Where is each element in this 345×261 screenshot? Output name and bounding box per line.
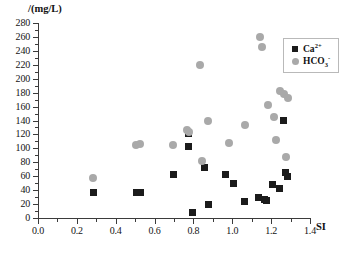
y-tick-label: 80: [0, 157, 30, 167]
x-tick: [116, 219, 117, 224]
data-point-ca2: [269, 181, 276, 188]
y-tick-label: 180: [0, 88, 30, 98]
data-point-hco3: [198, 157, 206, 165]
square-marker-icon: [289, 46, 301, 52]
x-tick: [155, 219, 156, 224]
x-tick-label: 0.2: [60, 226, 94, 236]
plot-area: [38, 23, 310, 218]
data-point-ca2: [205, 201, 212, 208]
y-tick-label: 160: [0, 102, 30, 112]
data-point-ca2: [137, 189, 144, 196]
x-tick-label: 0.6: [138, 226, 172, 236]
x-tick-label: 1.0: [215, 226, 249, 236]
x-tick: [310, 219, 311, 224]
data-point-hco3: [272, 136, 280, 144]
y-tick-label: 260: [0, 32, 30, 42]
y-tick-label: 200: [0, 74, 30, 84]
data-point-ca2: [263, 197, 270, 204]
data-point-ca2: [189, 209, 196, 216]
y-tick-label: 60: [0, 171, 30, 181]
x-tick-minor: [252, 219, 253, 222]
data-point-ca2: [276, 185, 283, 192]
x-tick-label: 0.4: [99, 226, 133, 236]
data-point-ca2: [280, 117, 287, 124]
y-tick-label: 40: [0, 185, 30, 195]
legend-label-hco3: HCO3-: [301, 54, 330, 68]
data-point-hco3: [89, 174, 97, 182]
x-tick: [38, 219, 39, 224]
x-tick-minor: [213, 219, 214, 222]
x-tick: [232, 219, 233, 224]
data-point-ca2: [170, 171, 177, 178]
data-point-hco3: [169, 141, 177, 149]
x-tick: [77, 219, 78, 224]
circle-marker-icon: [289, 58, 301, 65]
x-tick-label: 0.0: [21, 226, 55, 236]
y-axis-title: /(mg/L): [28, 3, 62, 14]
y-tick-label: 220: [0, 60, 30, 70]
data-point-hco3: [270, 113, 278, 121]
data-point-ca2: [241, 198, 248, 205]
x-tick-minor: [57, 219, 58, 222]
legend-item-ca[interactable]: Ca2+: [289, 42, 334, 55]
x-tick: [271, 219, 272, 224]
legend-item-hco3[interactable]: HCO3-: [289, 55, 334, 68]
data-point-hco3: [204, 117, 212, 125]
x-tick-label: 0.8: [176, 226, 210, 236]
data-point-ca2: [90, 189, 97, 196]
x-tick-minor: [96, 219, 97, 222]
y-tick-label: 120: [0, 129, 30, 139]
data-point-ca2: [284, 173, 291, 180]
x-tick-label: 1.4: [293, 226, 327, 236]
data-point-ca2: [230, 180, 237, 187]
legend-label-ca: Ca2+: [301, 42, 322, 54]
y-tick-label: 20: [0, 199, 30, 209]
legend: Ca2+ HCO3-: [283, 38, 339, 73]
data-point-ca2: [222, 171, 229, 178]
x-tick: [193, 219, 194, 224]
scatter-chart: /(mg/L) SI 02040608010012014016018020022…: [0, 0, 345, 261]
data-point-hco3: [284, 94, 292, 102]
x-tick-minor: [174, 219, 175, 222]
x-tick-minor: [291, 219, 292, 222]
x-tick-label: 1.2: [254, 226, 288, 236]
data-point-hco3: [282, 153, 290, 161]
data-point-ca2: [185, 143, 192, 150]
data-point-hco3: [196, 61, 204, 69]
y-tick-label: 140: [0, 116, 30, 126]
data-point-ca2: [201, 164, 208, 171]
y-tick-label: 240: [0, 46, 30, 56]
y-tick-label: 280: [0, 18, 30, 28]
y-tick-label: 100: [0, 143, 30, 153]
data-point-hco3: [185, 128, 193, 136]
x-tick-minor: [135, 219, 136, 222]
y-tick-label: 0: [0, 213, 30, 223]
